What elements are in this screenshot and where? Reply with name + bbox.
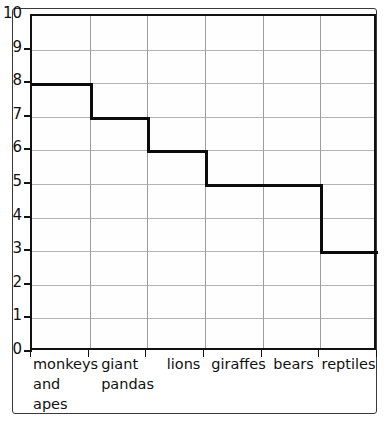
gridline-vertical bbox=[263, 16, 264, 348]
y-tick-label: 6 bbox=[12, 140, 22, 155]
bar-top-4 bbox=[263, 184, 321, 187]
gridline-vertical bbox=[147, 16, 148, 348]
bar-riser-2 bbox=[147, 117, 150, 151]
x-tick-mark bbox=[30, 350, 31, 357]
bar-top-2 bbox=[147, 150, 205, 153]
x-tick-label-4: bears bbox=[266, 352, 321, 414]
x-tick-label-line: bears bbox=[266, 354, 321, 374]
x-tick-label-line: apes bbox=[33, 394, 98, 414]
x-tick-label-2: lions bbox=[156, 352, 211, 414]
gridline-horizontal bbox=[32, 50, 374, 51]
x-tick-label-3: giraffes bbox=[211, 352, 266, 414]
bar-top-5 bbox=[320, 251, 378, 254]
x-tick-label-line: giant bbox=[101, 354, 156, 374]
chart-figure: 012345678910 monkeysandapesgiantpandasli… bbox=[0, 0, 388, 429]
x-tick-label-1: giantpandas bbox=[98, 352, 156, 414]
x-tick-label-line: and bbox=[33, 374, 98, 394]
y-tick-label: 3 bbox=[12, 241, 22, 256]
plot-area bbox=[30, 14, 376, 350]
gridline-horizontal bbox=[32, 117, 374, 118]
x-axis: monkeysandapesgiantpandaslionsgiraffesbe… bbox=[30, 352, 376, 414]
bar-top-3 bbox=[205, 184, 263, 187]
x-tick-label-0: monkeysandapes bbox=[30, 352, 98, 414]
bar-top-0 bbox=[32, 83, 90, 86]
x-tick-mark bbox=[376, 350, 377, 357]
gridline-horizontal bbox=[32, 318, 374, 319]
gridline-vertical bbox=[90, 16, 91, 348]
y-tick-label: 10 bbox=[3, 6, 22, 21]
x-tick-mark bbox=[88, 350, 89, 357]
gridline-horizontal bbox=[32, 285, 374, 286]
x-tick-label-5: reptiles bbox=[321, 352, 376, 414]
y-tick-label: 7 bbox=[12, 107, 22, 122]
y-tick-label: 1 bbox=[12, 308, 22, 323]
y-axis: 012345678910 bbox=[0, 0, 30, 360]
y-tick-label: 4 bbox=[12, 208, 22, 223]
x-tick-mark bbox=[203, 350, 204, 357]
bar-riser-1 bbox=[90, 83, 93, 117]
y-tick-label: 2 bbox=[12, 275, 22, 290]
bar-top-1 bbox=[90, 117, 148, 120]
x-tick-label-line: giraffes bbox=[211, 354, 266, 374]
x-tick-label-line: monkeys bbox=[33, 354, 98, 374]
x-tick-label-line: pandas bbox=[101, 374, 156, 394]
bar-riser-5 bbox=[320, 184, 323, 251]
x-tick-mark bbox=[318, 350, 319, 357]
x-tick-label-line: reptiles bbox=[321, 354, 376, 374]
x-tick-mark bbox=[145, 350, 146, 357]
gridline-vertical bbox=[320, 16, 321, 348]
y-tick-label: 0 bbox=[12, 342, 22, 357]
x-tick-mark bbox=[261, 350, 262, 357]
bar-riser-3 bbox=[205, 150, 208, 184]
y-tick-label: 8 bbox=[12, 73, 22, 88]
y-tick-label: 5 bbox=[12, 174, 22, 189]
x-tick-label-line: lions bbox=[156, 354, 211, 374]
y-tick-label: 9 bbox=[12, 40, 22, 55]
